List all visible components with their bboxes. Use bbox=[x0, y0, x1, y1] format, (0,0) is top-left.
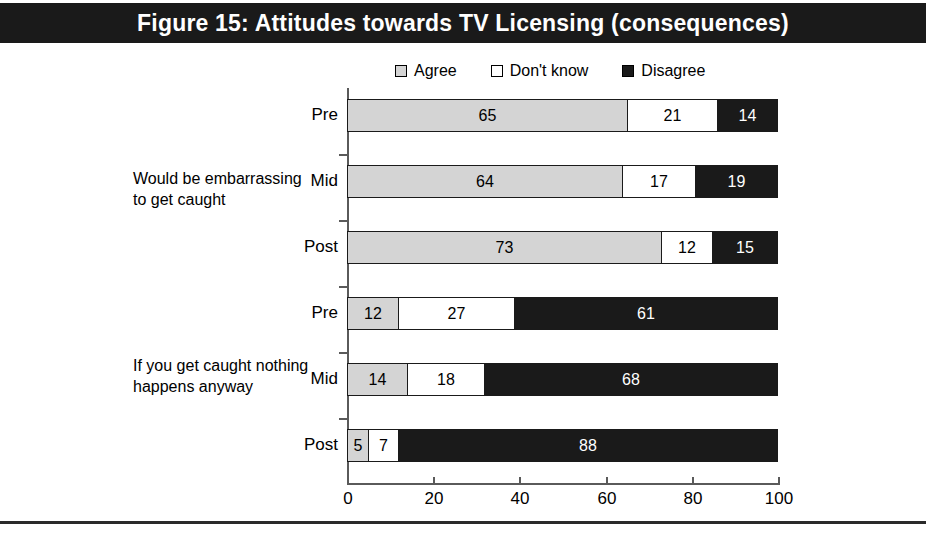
bar-segment-disagree: 68 bbox=[484, 363, 778, 396]
y-axis-tick bbox=[339, 286, 347, 288]
y-axis-tick bbox=[339, 220, 347, 222]
y-axis-label-g0-pre: Pre bbox=[258, 105, 338, 125]
x-axis-line bbox=[347, 483, 780, 485]
bar-segment-dont-know: 21 bbox=[627, 99, 718, 132]
x-axis-tick-label: 60 bbox=[584, 489, 630, 509]
x-axis-tick-label: 80 bbox=[670, 489, 716, 509]
bar-segment-agree: 64 bbox=[347, 165, 623, 198]
x-axis-tick bbox=[606, 477, 608, 484]
table-row: 14 18 68 bbox=[347, 363, 778, 396]
table-row: 73 12 15 bbox=[347, 231, 778, 264]
x-axis-tick-label: 20 bbox=[411, 489, 457, 509]
page-bottom-rule bbox=[0, 521, 926, 524]
x-axis-tick bbox=[347, 477, 349, 484]
table-row: 5 7 88 bbox=[347, 429, 778, 462]
y-axis-tick bbox=[339, 154, 347, 156]
bar-segment-agree: 12 bbox=[347, 297, 399, 330]
bar-segment-agree: 14 bbox=[347, 363, 408, 396]
bar-segment-dont-know: 7 bbox=[368, 429, 399, 462]
x-axis-tick-label: 0 bbox=[325, 489, 371, 509]
bar-segment-agree: 73 bbox=[347, 231, 662, 264]
bar-segment-dont-know: 18 bbox=[407, 363, 485, 396]
bar-segment-disagree: 14 bbox=[717, 99, 778, 132]
x-axis-tick bbox=[692, 477, 694, 484]
x-axis-tick bbox=[519, 477, 521, 484]
x-axis-tick-label: 40 bbox=[497, 489, 543, 509]
bar-segment-agree: 65 bbox=[347, 99, 628, 132]
bar-segment-disagree: 88 bbox=[398, 429, 778, 462]
x-axis-tick bbox=[433, 477, 435, 484]
y-axis-label-g0-post: Post bbox=[258, 237, 338, 257]
y-axis-label-g1-pre: Pre bbox=[258, 303, 338, 323]
bar-segment-disagree: 61 bbox=[514, 297, 778, 330]
table-row: 65 21 14 bbox=[347, 99, 778, 132]
table-row: 64 17 19 bbox=[347, 165, 778, 198]
bar-segment-disagree: 19 bbox=[695, 165, 778, 198]
y-axis-tick bbox=[339, 418, 347, 420]
y-axis-label-g1-mid: Mid bbox=[258, 369, 338, 389]
bar-segment-dont-know: 17 bbox=[622, 165, 696, 198]
x-axis-tick bbox=[778, 477, 780, 484]
bar-segment-agree: 5 bbox=[347, 429, 369, 462]
y-axis-label-g1-post: Post bbox=[258, 435, 338, 455]
chart-plot-area: 0 20 40 60 80 100 Would be embarrassing … bbox=[0, 0, 926, 538]
y-axis-label-g0-mid: Mid bbox=[258, 171, 338, 191]
table-row: 12 27 61 bbox=[347, 297, 778, 330]
bar-segment-disagree: 15 bbox=[712, 231, 778, 264]
y-axis-tick bbox=[339, 352, 347, 354]
x-axis-tick-label: 100 bbox=[756, 489, 802, 509]
bar-segment-dont-know: 27 bbox=[398, 297, 515, 330]
bar-segment-dont-know: 12 bbox=[661, 231, 713, 264]
y-axis-line bbox=[347, 88, 349, 484]
